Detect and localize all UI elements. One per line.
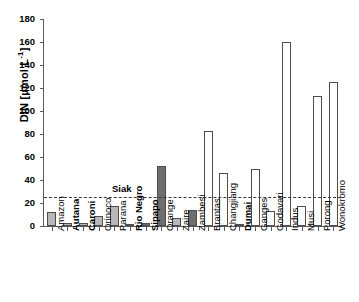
x-axis-tick	[146, 227, 147, 231]
x-axis-label-amazon: Amazon	[56, 196, 66, 231]
x-axis-label-ganges: Ganges	[259, 198, 269, 231]
x-axis-label-zaire: Zaire	[181, 209, 191, 231]
x-axis-label-musi: Musi	[306, 211, 316, 231]
x-axis-tick	[130, 227, 131, 231]
y-axis-tick-label: 0	[5, 221, 35, 230]
x-axis-label-caroni: Caroni	[87, 201, 97, 231]
y-axis-tick-label: 160	[5, 37, 35, 46]
x-axis-label-orinoco: Orinoco	[103, 198, 113, 231]
y-axis-tick	[40, 226, 44, 227]
x-axis-tick	[286, 227, 287, 231]
plot-area: Siak	[44, 19, 341, 226]
siak-reference-line	[44, 197, 341, 198]
x-axis-tick	[271, 227, 272, 231]
x-axis-label-wonokromo: Wonokromo	[337, 180, 347, 231]
x-axis-tick	[193, 227, 194, 231]
chart-figure: DIN [µmol L-1] 020406080100120140160180 …	[0, 0, 359, 302]
x-axis-tick	[239, 227, 240, 231]
x-axis-tick	[83, 227, 84, 231]
y-axis-tick-label: 60	[5, 152, 35, 161]
x-axis-tick	[177, 227, 178, 231]
x-axis-label-changjiang: Changjiang	[228, 183, 238, 231]
x-axis-label-zambesi: Zambesi	[197, 195, 207, 231]
x-axis-label-brantas: Brantas	[212, 198, 222, 231]
x-axis-tick	[255, 227, 256, 231]
y-axis-tick-label: 100	[5, 106, 35, 115]
x-axis-tick	[208, 227, 209, 231]
x-axis-tick	[114, 227, 115, 231]
x-axis-tick	[67, 227, 68, 231]
x-axis-label-rio-negro: Rio Negro	[134, 186, 144, 231]
x-axis-tick	[52, 227, 53, 231]
x-axis-label-orange: Orange	[165, 199, 175, 231]
x-axis-label-sipapo: Sipapo	[150, 199, 160, 231]
y-axis-tick-label: 20	[5, 198, 35, 207]
x-axis-tick	[161, 227, 162, 231]
y-axis-tick-label: 40	[5, 175, 35, 184]
siak-reference-label: Siak	[112, 183, 132, 194]
x-axis-tick	[99, 227, 100, 231]
y-axis-tick-label: 180	[5, 14, 35, 23]
x-axis-label-godavari: Godavari	[275, 192, 285, 231]
x-axis-tick	[224, 227, 225, 231]
x-axis-tick	[318, 227, 319, 231]
x-axis-tick	[333, 227, 334, 231]
x-axis-label-dumai: Dumai	[243, 202, 253, 231]
x-axis-tick	[302, 227, 303, 231]
y-axis-tick-label: 80	[5, 129, 35, 138]
x-axis-label-porong: Porong	[322, 200, 332, 231]
y-axis-tick-label: 120	[5, 83, 35, 92]
y-axis-title-exponent: -1	[16, 51, 25, 59]
y-axis-title-tail: ]	[18, 47, 30, 51]
x-axis-label-parana: Parana	[118, 200, 128, 231]
x-axis-label-indus: Indus	[290, 208, 300, 231]
y-axis-tick-label: 140	[5, 60, 35, 69]
x-axis-label-autana: Autana	[71, 199, 81, 231]
